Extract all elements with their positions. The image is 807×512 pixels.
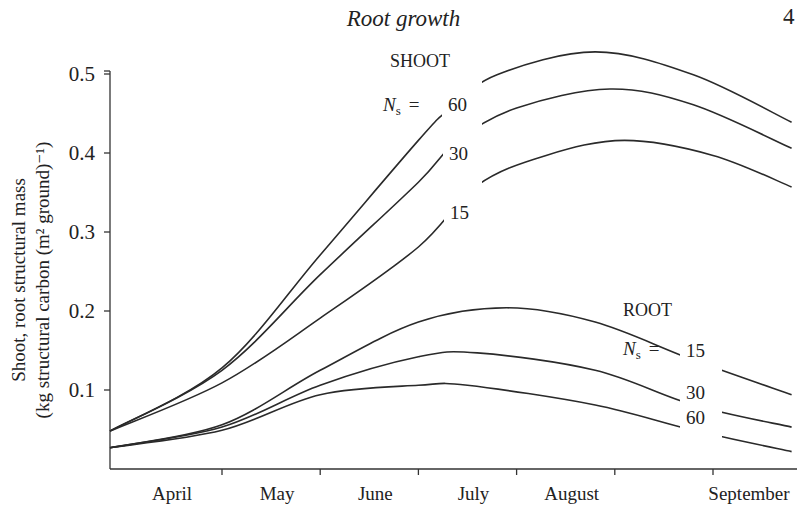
root-group-label: ROOT: [623, 300, 672, 320]
y-tick-label: 0.4: [69, 141, 96, 165]
x-tick-label: May: [260, 483, 295, 504]
shoot-ns-eq: =: [409, 94, 420, 115]
y-axis-title-line2: (kg structural carbon (m² ground)⁻¹): [32, 142, 54, 419]
root-30-label: 30: [686, 382, 705, 403]
root-ns-label: Ns=: [622, 338, 659, 362]
root-ns-eq: =: [649, 338, 660, 359]
x-ticks: AprilMayJuneJulyAugustSeptember: [152, 469, 790, 504]
x-tick-label: August: [544, 483, 600, 504]
shoot-curve-ns-30: [110, 89, 792, 431]
root-15-label: 15: [686, 340, 705, 361]
x-tick-label: July: [458, 483, 490, 504]
line-chart: 0.10.20.30.40.5 AprilMayJuneJulyAugustSe…: [0, 0, 807, 512]
shoot-ns-label: Ns=: [382, 94, 419, 118]
shoot-15-label: 15: [450, 202, 469, 223]
root-60-label: 60: [686, 407, 705, 428]
shoot-60-label: 60: [448, 94, 467, 115]
y-ticks: 0.10.20.30.40.5: [69, 62, 110, 402]
y-tick-label: 0.3: [69, 220, 95, 244]
y-axis-title: Shoot, root structural mass (kg structur…: [8, 142, 54, 419]
y-axis-title-line1: Shoot, root structural mass: [8, 178, 29, 382]
y-tick-label: 0.2: [69, 299, 95, 323]
y-tick-label: 0.1: [69, 378, 95, 402]
shoot-ns-sub: s: [396, 103, 401, 118]
x-tick-label: April: [152, 483, 192, 504]
shoot-30-label: 30: [449, 143, 468, 164]
x-tick-label: September: [708, 483, 790, 504]
x-tick-label: June: [358, 483, 393, 504]
root-ns-sub: s: [636, 347, 641, 362]
y-tick-label: 0.5: [69, 62, 95, 86]
shoot-group-label: SHOOT: [390, 51, 450, 71]
annotations: SHOOT Ns= 60 30 15 ROOT Ns= 15 30 60: [382, 51, 705, 428]
